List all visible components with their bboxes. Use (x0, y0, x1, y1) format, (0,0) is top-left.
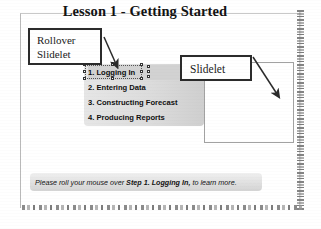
resize-handle-icon[interactable] (147, 70, 150, 73)
resize-handle-icon[interactable] (111, 77, 114, 80)
callout-slidelet-label: Slidelet (190, 61, 250, 78)
callout-slidelet: Slidelet (180, 55, 252, 81)
callout-rollover-line2: Slidelet (37, 47, 100, 61)
instruction-bold: Step 1. Logging In, (126, 178, 190, 187)
resize-handle-icon[interactable] (111, 63, 114, 66)
page-title: Lesson 1 - Getting Started (20, 3, 270, 20)
menu-item-entering-data[interactable]: 2. Entering Data (88, 80, 206, 95)
instruction-prefix: Please roll your mouse over (35, 178, 126, 187)
resize-handle-icon[interactable] (147, 75, 150, 78)
screenshot-root: Lesson 1 - Getting Started 1. Logging In… (0, 0, 321, 229)
menu-item-producing-reports[interactable]: 4. Producing Reports (88, 110, 206, 125)
resize-handle-icon[interactable] (140, 63, 143, 66)
menu-item-constructing-forecast[interactable]: 3. Constructing Forecast (88, 95, 206, 110)
scan-shadow-right-edge (299, 12, 302, 208)
scan-torn-bottom-edge (22, 205, 302, 210)
resize-handle-icon[interactable] (147, 65, 150, 68)
resize-handle-icon[interactable] (83, 77, 86, 80)
callout-rollover-line1: Rollover (37, 33, 100, 47)
instruction-text: Please roll your mouse over Step 1. Logg… (35, 178, 270, 187)
callout-rollover-slidelet: Rollover Slidelet (28, 28, 102, 65)
resize-handle-icon[interactable] (140, 77, 143, 80)
resize-handle-icon[interactable] (83, 70, 86, 73)
resize-handle-icon[interactable] (140, 70, 143, 73)
instruction-suffix: to learn more. (190, 178, 236, 187)
